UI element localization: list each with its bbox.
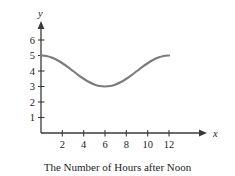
x-axis-name-label: x: [212, 128, 218, 139]
y-tick-label-5: 5: [30, 50, 35, 61]
x-tick-label-2: 2: [60, 139, 65, 150]
y-axis-arrow-icon: [38, 21, 45, 29]
x-tick-label-4: 4: [81, 139, 87, 150]
x-tick-label-6: 6: [102, 139, 107, 150]
y-axis-name-label: y: [37, 8, 43, 19]
depth-line-chart: 1 2 3 4 5 6 2 4 6 8 10 12 y x: [0, 0, 235, 176]
x-tick-label-12: 12: [164, 139, 175, 150]
y-tick-label-6: 6: [30, 35, 35, 46]
x-tick-label-10: 10: [142, 139, 153, 150]
x-tick-label-8: 8: [124, 139, 129, 150]
y-tick-label-1: 1: [30, 112, 35, 123]
y-tick-label-3: 3: [30, 81, 35, 92]
chart-caption: The Number of Hours after Noon: [0, 161, 235, 173]
x-axis-arrow-icon: [199, 130, 207, 137]
chart-figure: 1 2 3 4 5 6 2 4 6 8 10 12 y x Depth (fee…: [0, 0, 235, 176]
depth-curve: [41, 56, 169, 87]
y-tick-label-2: 2: [30, 97, 35, 108]
y-tick-label-4: 4: [30, 66, 36, 77]
